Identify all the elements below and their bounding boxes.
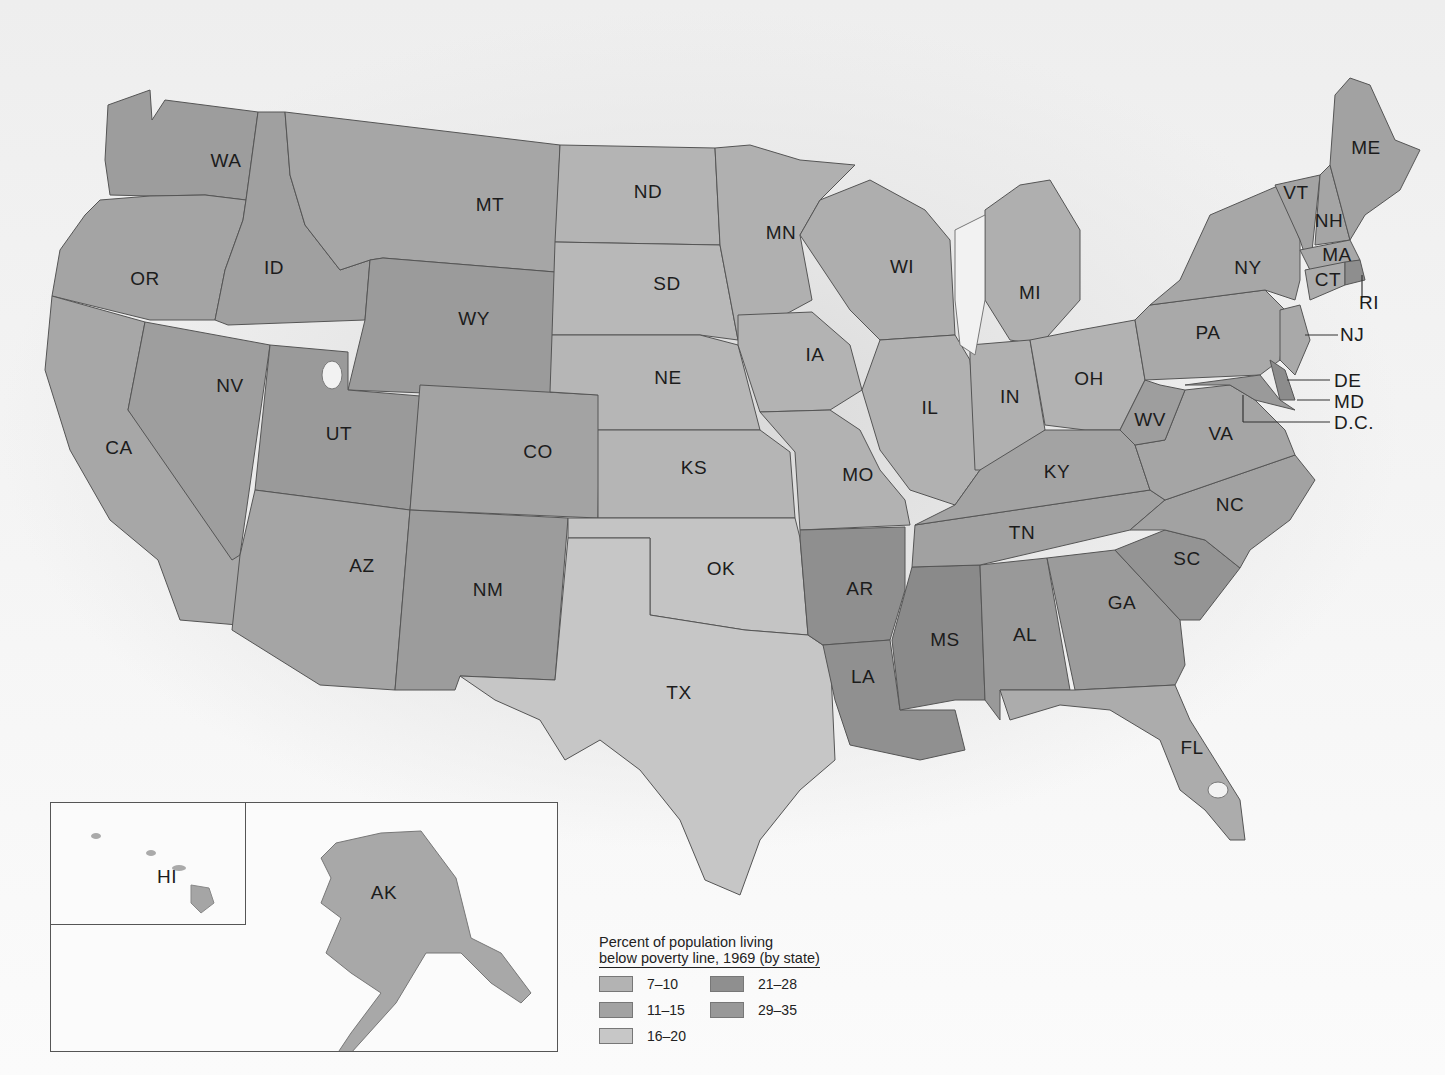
label-tn: TN (1009, 522, 1035, 544)
label-dc: D.C. (1334, 412, 1374, 434)
legend-title-line1: Percent of population living (599, 934, 869, 950)
state-mt[interactable] (285, 112, 560, 272)
label-id: ID (264, 257, 284, 279)
state-ia[interactable] (738, 312, 862, 412)
state-wy[interactable] (348, 258, 555, 398)
legend-label: 29–35 (758, 1002, 797, 1018)
state-fl[interactable] (1000, 685, 1245, 840)
label-tx: TX (666, 682, 691, 704)
legend-swatch (710, 976, 744, 992)
label-nv: NV (216, 375, 243, 397)
legend-label: 16–20 (647, 1028, 686, 1044)
label-nm: NM (473, 579, 504, 601)
label-ak: AK (371, 882, 397, 904)
label-ky: KY (1044, 461, 1070, 483)
state-wa[interactable] (105, 90, 258, 200)
state-sd[interactable] (552, 242, 738, 340)
label-ma: MA (1322, 244, 1352, 266)
label-or: OR (130, 268, 160, 290)
label-ks: KS (681, 457, 707, 479)
label-il: IL (922, 397, 939, 419)
label-nd: ND (634, 181, 662, 203)
legend-items: 7–10 11–15 16–20 21–28 29–35 (599, 976, 869, 1056)
state-mi[interactable] (985, 180, 1080, 345)
label-ne: NE (654, 367, 681, 389)
great-lake-michigan (955, 215, 985, 355)
label-mi: MI (1019, 282, 1041, 304)
label-mn: MN (766, 222, 797, 244)
label-md: MD (1334, 391, 1365, 413)
label-ms: MS (930, 629, 960, 651)
legend-swatch (599, 1028, 633, 1044)
label-ct: CT (1315, 269, 1341, 291)
label-wa: WA (211, 150, 242, 172)
label-ar: AR (846, 578, 873, 600)
label-ny: NY (1234, 257, 1261, 279)
legend-swatch (599, 976, 633, 992)
label-sc: SC (1173, 548, 1200, 570)
legend-title-line2: below poverty line, 1969 (by state) (599, 950, 820, 968)
label-ga: GA (1108, 592, 1136, 614)
label-ri: RI (1359, 292, 1379, 314)
state-wi[interactable] (800, 180, 955, 340)
label-az: AZ (349, 555, 374, 577)
label-va: VA (1209, 423, 1234, 445)
legend-item-11-15: 11–15 (599, 1002, 685, 1018)
label-mt: MT (476, 194, 504, 216)
label-in: IN (1000, 386, 1020, 408)
lake-okeechobee (1208, 782, 1228, 798)
label-wv: WV (1134, 409, 1166, 431)
state-az[interactable] (232, 490, 410, 690)
label-pa: PA (1196, 322, 1221, 344)
label-co: CO (523, 441, 553, 463)
label-nh: NH (1315, 210, 1343, 232)
label-ok: OK (707, 558, 735, 580)
legend-title: Percent of population living below pover… (599, 934, 869, 968)
label-ut: UT (326, 423, 352, 445)
state-ak[interactable] (321, 831, 531, 1051)
label-sd: SD (653, 273, 680, 295)
label-la: LA (851, 666, 875, 688)
label-de: DE (1334, 370, 1361, 392)
legend-swatch (710, 1002, 744, 1018)
legend-item-29-35: 29–35 (710, 1002, 797, 1018)
label-ia: IA (806, 344, 825, 366)
label-me: ME (1351, 137, 1381, 159)
inset-hawaii-frame (50, 802, 246, 925)
legend-swatch (599, 1002, 633, 1018)
state-nj[interactable] (1280, 305, 1310, 375)
legend-item-16-20: 16–20 (599, 1028, 686, 1044)
state-ny[interactable] (1150, 185, 1300, 305)
label-wy: WY (458, 308, 490, 330)
label-ca: CA (105, 437, 132, 459)
legend-label: 7–10 (647, 976, 678, 992)
label-mo: MO (842, 464, 874, 486)
label-nc: NC (1216, 494, 1244, 516)
label-nj: NJ (1340, 324, 1364, 346)
legend-label: 11–15 (647, 1002, 685, 1018)
state-co[interactable] (410, 385, 600, 518)
label-al: AL (1013, 624, 1037, 646)
legend-item-7-10: 7–10 (599, 976, 678, 992)
label-fl: FL (1180, 737, 1203, 759)
label-wi: WI (890, 256, 914, 278)
state-me[interactable] (1330, 78, 1420, 240)
great-salt-lake (322, 361, 342, 389)
legend-item-21-28: 21–28 (710, 976, 797, 992)
label-hi: HI (157, 866, 177, 888)
legend-label: 21–28 (758, 976, 797, 992)
label-vt: VT (1283, 182, 1308, 204)
state-or[interactable] (52, 195, 246, 320)
label-oh: OH (1074, 368, 1104, 390)
map-legend: Percent of population living below pover… (599, 934, 869, 1056)
